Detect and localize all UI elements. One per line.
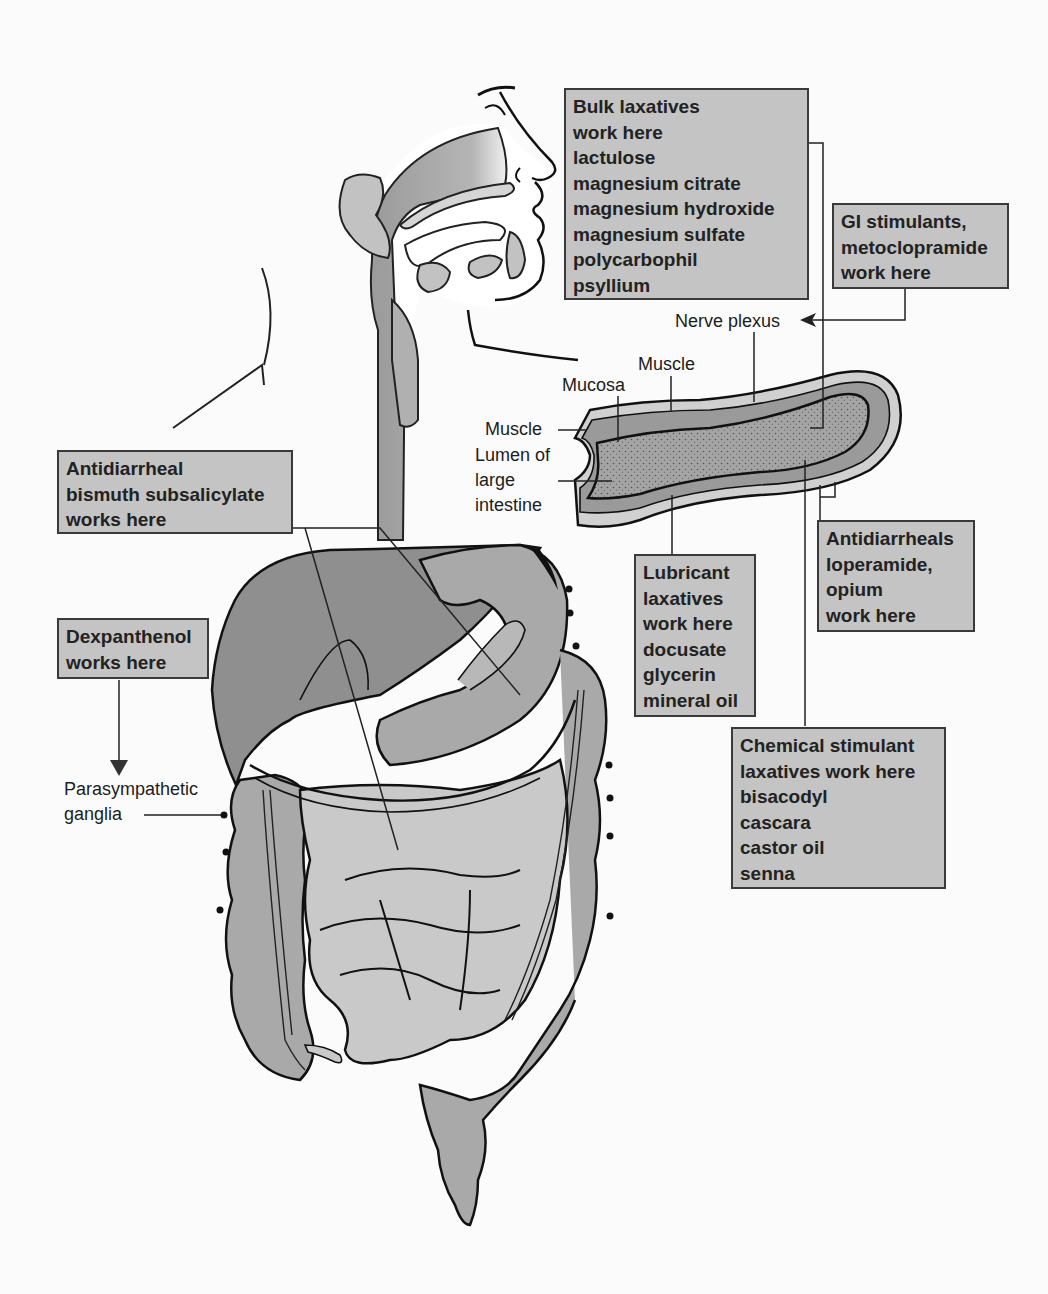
nerve-plexus-label: Nerve plexus <box>675 309 780 334</box>
dexpanthenol-box: Dexpanthenol works here <box>57 618 209 679</box>
drug-docusate: docusate <box>643 637 747 663</box>
lumen-label-line-3: intestine <box>475 493 550 518</box>
muscle-inner-label: Muscle <box>485 417 542 442</box>
drug-psyllium: psyllium <box>573 273 800 299</box>
drug-magnesium-sulfate: magnesium sulfate <box>573 222 800 248</box>
dexpanthenol-subtitle: works here <box>66 650 200 676</box>
drug-dexpanthenol: Dexpanthenol <box>66 624 200 650</box>
chemical-stimulant-title: Chemical stimulant <box>740 733 937 759</box>
drug-castor-oil: castor oil <box>740 835 937 861</box>
antidiarrheal-subtitle: works here <box>66 507 284 533</box>
antidiarrheals-title: Antidiarrheals <box>826 526 966 552</box>
lubricant-subtitle: work here <box>643 611 747 637</box>
drug-bisacodyl: bisacodyl <box>740 784 937 810</box>
drug-magnesium-citrate: magnesium citrate <box>573 171 800 197</box>
drug-senna: senna <box>740 861 937 887</box>
parasympathetic-label-line-1: Parasympathetic <box>64 777 198 802</box>
drug-lactulose: lactulose <box>573 145 800 171</box>
parasympathetic-ganglia-label: Parasympathetic ganglia <box>64 777 198 827</box>
drug-polycarbophil: polycarbophil <box>573 247 800 273</box>
parasympathetic-label-line-2: ganglia <box>64 802 198 827</box>
gi-stimulants-box: GI stimulants, metoclopramide work here <box>832 203 1009 289</box>
drug-glycerin: glycerin <box>643 662 747 688</box>
gi-stimulants-subtitle: work here <box>841 260 1000 286</box>
chemical-stimulant-box: Chemical stimulant laxatives work here b… <box>731 727 946 889</box>
drug-bismuth-subsalicylate: bismuth subsalicylate <box>66 482 284 508</box>
lubricant-laxatives-box: Lubricant laxatives work here docusate g… <box>634 554 756 717</box>
lumen-label-line-1: Lumen of <box>475 443 550 468</box>
drug-mineral-oil: mineral oil <box>643 688 747 714</box>
bulk-laxatives-box: Bulk laxatives work here lactulose magne… <box>564 88 809 300</box>
drug-opium: opium <box>826 577 966 603</box>
drug-metoclopramide: metoclopramide <box>841 235 1000 261</box>
muscle-outer-label: Muscle <box>638 352 695 377</box>
drug-cascara: cascara <box>740 810 937 836</box>
drug-loperamide: loperamide, <box>826 552 966 578</box>
small-intestine <box>300 760 568 1063</box>
lubricant-title: Lubricant <box>643 560 747 586</box>
antidiarrheals-loperamide-box: Antidiarrheals loperamide, opium work he… <box>817 520 975 632</box>
bulk-laxatives-title: Bulk laxatives <box>573 94 800 120</box>
antidiarrheal-title: Antidiarrheal <box>66 456 284 482</box>
ganglia-pointer-dot <box>221 812 228 819</box>
bulk-laxatives-subtitle: work here <box>573 120 800 146</box>
antidiarrheal-bismuth-box: Antidiarrheal bismuth subsalicylate work… <box>57 450 293 534</box>
mucosa-label: Mucosa <box>562 373 625 398</box>
lumen-label-line-2: large <box>475 468 550 493</box>
lumen-label: Lumen of large intestine <box>475 443 550 518</box>
drug-magnesium-hydroxide: magnesium hydroxide <box>573 196 800 222</box>
chemical-stimulant-subtitle: laxatives work here <box>740 759 937 785</box>
antidiarrheals-subtitle: work here <box>826 603 966 629</box>
lubricant-title-2: laxatives <box>643 586 747 612</box>
arrow-to-ganglia <box>110 760 128 776</box>
shoulder-outline <box>173 268 271 428</box>
gi-stimulants-title: GI stimulants, <box>841 209 1000 235</box>
